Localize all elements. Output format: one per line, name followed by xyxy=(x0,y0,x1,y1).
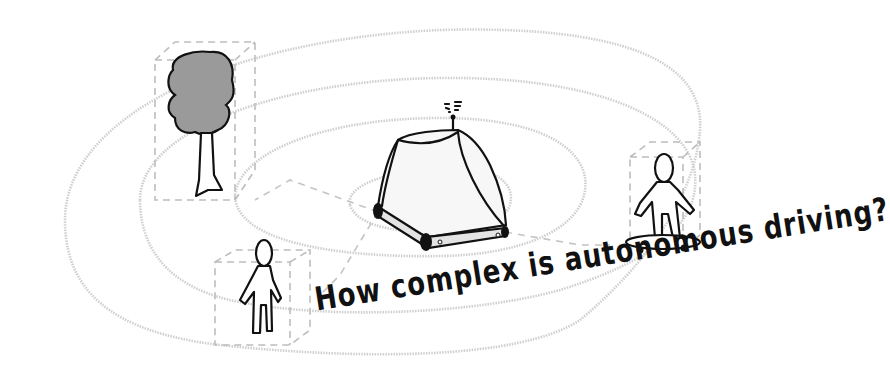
tree-canopy xyxy=(168,52,233,134)
tree xyxy=(155,42,255,200)
antenna-icon xyxy=(451,115,456,120)
signal-icon xyxy=(445,102,461,112)
pedestrian xyxy=(215,240,310,345)
